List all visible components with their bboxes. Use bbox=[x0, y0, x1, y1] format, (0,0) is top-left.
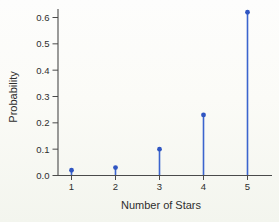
x-tick-label: 3 bbox=[157, 181, 162, 192]
y-tick-label: 0.1 bbox=[36, 144, 49, 155]
x-tick-label: 4 bbox=[201, 181, 206, 192]
stem-marker bbox=[69, 168, 74, 173]
x-tick-label: 1 bbox=[69, 181, 74, 192]
y-axis-label: Probability bbox=[7, 71, 19, 123]
x-tick-label: 5 bbox=[245, 181, 250, 192]
stem-marker bbox=[157, 147, 162, 152]
y-tick-label: 0.6 bbox=[36, 12, 49, 23]
stem-plot-figure: 0.00.10.20.30.40.50.612345 Probability N… bbox=[0, 0, 279, 222]
y-tick-label: 0.2 bbox=[36, 117, 49, 128]
stem-marker bbox=[201, 113, 206, 118]
stem-marker bbox=[245, 10, 250, 15]
y-tick-label: 0.3 bbox=[36, 91, 49, 102]
stem-plot-canvas: 0.00.10.20.30.40.50.612345 Probability N… bbox=[0, 0, 279, 222]
y-tick-label: 0.4 bbox=[36, 65, 49, 76]
y-tick-label: 0.5 bbox=[36, 38, 49, 49]
x-tick-label: 2 bbox=[113, 181, 118, 192]
chart-elements: 0.00.10.20.30.40.50.612345 bbox=[36, 10, 250, 192]
x-axis-label: Number of Stars bbox=[121, 199, 202, 211]
y-tick-label: 0.0 bbox=[36, 170, 49, 181]
stem-marker bbox=[113, 165, 118, 170]
